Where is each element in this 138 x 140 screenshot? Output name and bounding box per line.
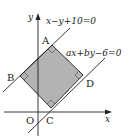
origin-label: O <box>26 115 34 126</box>
equation-line-1: x−y+10=0 <box>46 16 96 26</box>
vertex-label-a: A <box>41 35 50 46</box>
equation-line-2: ax+by−6=0 <box>66 48 122 58</box>
x-axis-label: x <box>105 114 110 124</box>
square-diagram: y x O x−y+10=0 ax+by−6=0 A B C D <box>0 0 138 140</box>
vertex-label-b: B <box>7 72 14 83</box>
y-axis-label: y <box>27 12 34 22</box>
y-axis-arrow-icon <box>36 13 41 20</box>
vertex-label-c: C <box>46 115 54 126</box>
vertex-label-d: D <box>86 78 94 89</box>
